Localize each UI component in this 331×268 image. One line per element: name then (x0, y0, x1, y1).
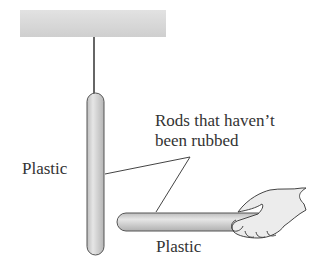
leader-line-vertical-rod (105, 157, 190, 174)
left-rod-label: Plastic (22, 159, 67, 179)
bottom-rod-label: Plastic (156, 237, 201, 257)
ceiling (20, 10, 166, 37)
hanging-rod (87, 93, 104, 255)
leader-line-horizontal-rod (156, 157, 190, 212)
callout-label-line1: Rods that haven’t (155, 111, 275, 131)
callout-label-line2: been rubbed (155, 131, 239, 151)
